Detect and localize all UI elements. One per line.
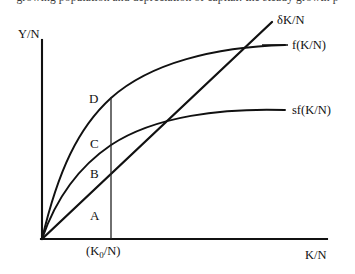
k0-tick-prefix: (K xyxy=(86,244,99,258)
depreciation-line xyxy=(42,22,272,239)
depreciation-line-label: δK/N xyxy=(277,14,304,27)
point-label-b: B xyxy=(90,167,99,180)
point-label-c: C xyxy=(90,137,99,150)
production-function-curve xyxy=(42,45,285,239)
x-axis-label: K/N xyxy=(305,249,327,262)
point-label-d: D xyxy=(89,92,98,105)
y-axis-label: Y/N xyxy=(18,28,40,41)
saving-function-curve xyxy=(42,110,285,239)
production-function-label: f(K/N) xyxy=(292,39,326,52)
solow-growth-figure: growing population and depreciation of c… xyxy=(0,0,355,274)
k0-tick-suffix: /N) xyxy=(104,244,121,258)
point-label-a: A xyxy=(90,209,99,222)
saving-function-label: sf(K/N) xyxy=(292,104,331,117)
k0-tick-label: (K0/N) xyxy=(86,245,120,260)
